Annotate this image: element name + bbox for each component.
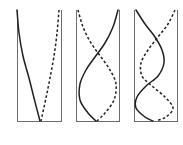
figure-root — [0, 0, 183, 145]
mode-shape-figure — [0, 0, 183, 145]
